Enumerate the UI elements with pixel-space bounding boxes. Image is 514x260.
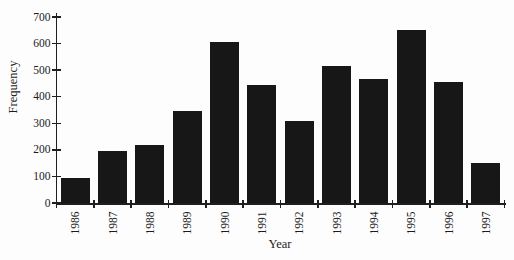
x-axis-tick	[93, 200, 94, 208]
x-tick-label-1995: 1995	[405, 212, 417, 235]
y-axis-tick	[52, 69, 61, 70]
y-tick-label: 400	[17, 91, 51, 102]
y-axis-tick	[52, 43, 61, 44]
bar-1990	[210, 42, 239, 203]
y-tick-label: 300	[17, 118, 51, 129]
x-axis-tick	[56, 200, 57, 208]
x-tick-label-1996: 1996	[443, 212, 455, 235]
x-axis-tick	[280, 200, 281, 208]
y-tick-label: 100	[17, 171, 51, 182]
x-tick-label-1988: 1988	[144, 212, 156, 235]
y-tick-label: 0	[17, 198, 51, 209]
x-axis-tick	[205, 200, 206, 208]
bar-1986	[61, 178, 90, 203]
y-axis-tick	[52, 16, 61, 17]
x-axis-tick	[168, 200, 169, 208]
x-tick-label-1987: 1987	[107, 212, 119, 235]
x-tick-label-1989: 1989	[181, 212, 193, 235]
x-axis-tick	[504, 200, 505, 208]
bar-chart-figure: 0100200300400500600700198619871988198919…	[0, 0, 514, 260]
y-tick-label: 700	[17, 12, 51, 23]
x-axis-tick	[317, 200, 318, 208]
y-axis-title: Frequency	[7, 61, 20, 114]
x-tick-label-1991: 1991	[256, 212, 268, 235]
x-tick-label-1990: 1990	[219, 212, 231, 235]
y-axis-tick	[52, 123, 61, 124]
x-tick-label-1992: 1992	[293, 212, 305, 235]
x-axis-tick	[242, 200, 243, 208]
y-axis-tick	[52, 96, 61, 97]
bar-1994	[359, 79, 388, 203]
x-axis-tick	[429, 200, 430, 208]
bar-1987	[98, 151, 127, 203]
y-axis-tick	[52, 149, 61, 150]
y-tick-label: 600	[17, 38, 51, 49]
bar-1996	[434, 82, 463, 203]
bar-1995	[397, 30, 426, 203]
y-axis-tick	[52, 176, 61, 177]
y-tick-label: 500	[17, 65, 51, 76]
x-axis-tick	[130, 200, 131, 208]
x-axis-title: Year	[268, 238, 291, 251]
x-tick-label-1997: 1997	[480, 212, 492, 235]
bar-1989	[173, 111, 202, 203]
bar-1997	[471, 163, 500, 203]
bar-1988	[135, 145, 164, 203]
x-tick-label-1994: 1994	[368, 212, 380, 235]
x-axis-tick	[354, 200, 355, 208]
bar-1992	[285, 121, 314, 203]
bar-1991	[247, 85, 276, 203]
x-axis-tick	[466, 200, 467, 208]
x-tick-label-1993: 1993	[331, 212, 343, 235]
bar-1993	[322, 66, 351, 203]
y-tick-label: 200	[17, 144, 51, 155]
x-axis-tick	[392, 200, 393, 208]
x-tick-label-1986: 1986	[69, 212, 81, 235]
